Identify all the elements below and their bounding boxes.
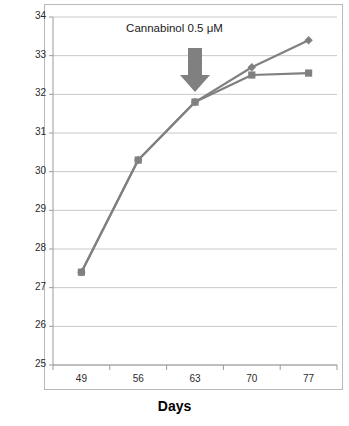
x-tick-label: 49 <box>61 373 101 384</box>
y-tick-label: 28 <box>22 242 46 253</box>
annotation-arrow <box>180 48 210 92</box>
y-tick-label: 31 <box>22 126 46 137</box>
x-tick-label: 56 <box>118 373 158 384</box>
x-axis-title: Days <box>0 398 349 414</box>
y-tick-label: 27 <box>22 281 46 292</box>
data-point-diamond <box>304 36 312 44</box>
data-point-square <box>135 156 142 163</box>
y-tick-label: 30 <box>22 165 46 176</box>
data-point-square <box>78 269 85 276</box>
data-point-square <box>248 71 255 78</box>
annotation-text: Cannabinol 0.5 μM <box>0 22 349 34</box>
line-chart-plot <box>0 0 349 426</box>
chart-figure: 25262728293031323334 4956637077 Cannabin… <box>0 0 349 426</box>
y-tick-label: 25 <box>22 358 46 369</box>
x-tick-label: 63 <box>175 373 215 384</box>
data-point-square <box>191 98 198 105</box>
y-tick-label: 26 <box>22 319 46 330</box>
y-tick-label: 33 <box>22 49 46 60</box>
y-tick-label: 32 <box>22 87 46 98</box>
x-tickmarks <box>53 365 337 370</box>
x-tick-label: 70 <box>232 373 272 384</box>
y-tick-label: 34 <box>22 10 46 21</box>
data-point-square <box>305 69 312 76</box>
y-tick-label: 29 <box>22 203 46 214</box>
x-tick-label: 77 <box>289 373 329 384</box>
down-arrow-icon <box>180 48 210 92</box>
